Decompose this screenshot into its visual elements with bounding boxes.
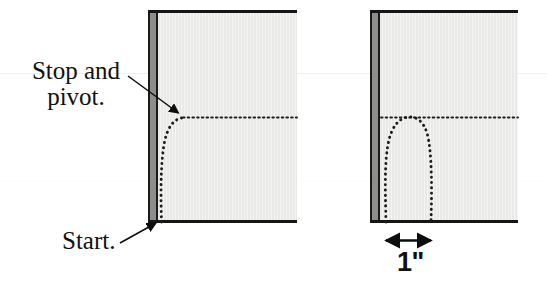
right-panel-arch-stitch-line — [385, 117, 431, 222]
one-inch-measurement-label: 1" — [397, 249, 424, 277]
start-label: Start. — [62, 228, 115, 254]
diagram-canvas: Stop andpivot. Start. 1" — [0, 0, 547, 287]
start-arrow — [120, 223, 156, 243]
stop-and-pivot-line-2: pivot. — [47, 83, 105, 110]
stop-and-pivot-line-1: Stop and — [32, 57, 120, 84]
stop-and-pivot-label: Stop andpivot. — [16, 58, 136, 109]
left-panel-curved-stitch-line — [161, 118, 184, 223]
